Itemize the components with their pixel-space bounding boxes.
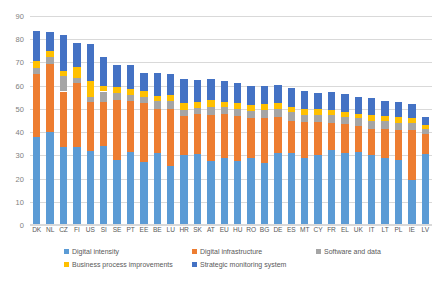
- bar-segment-BE-business-process-improvements[interactable]: [154, 96, 162, 101]
- bar-segment-HU-digital-infrastructure[interactable]: [234, 116, 242, 161]
- bar-segment-FI-digital-intensity[interactable]: [73, 147, 81, 225]
- bar-segment-IT-digital-infrastructure[interactable]: [368, 129, 376, 156]
- bar-segment-NL-digital-intensity[interactable]: [46, 132, 54, 225]
- bar-segment-EU-strategic-monitoring-system[interactable]: [221, 81, 229, 102]
- bar-segment-IT-software-and-data[interactable]: [368, 121, 376, 129]
- bar-segment-LU-digital-infrastructure[interactable]: [167, 109, 175, 166]
- bar-segment-HU-digital-intensity[interactable]: [234, 161, 242, 225]
- bar-segment-PT-software-and-data[interactable]: [127, 95, 135, 101]
- bar-ES[interactable]: [288, 16, 296, 225]
- bar-CZ[interactable]: [60, 16, 68, 225]
- bar-HR[interactable]: [180, 16, 188, 225]
- bar-CY[interactable]: [314, 16, 322, 225]
- bar-segment-LT-digital-intensity[interactable]: [381, 158, 389, 225]
- bar-segment-EU-software-and-data[interactable]: [221, 107, 229, 114]
- bar-US[interactable]: [87, 16, 95, 225]
- bar-segment-DE-software-and-data[interactable]: [274, 109, 282, 117]
- bar-segment-FR-strategic-monitoring-system[interactable]: [328, 92, 336, 111]
- bar-segment-MT-digital-infrastructure[interactable]: [301, 122, 309, 158]
- bar-NL[interactable]: [46, 16, 54, 225]
- bar-IT[interactable]: [368, 16, 376, 225]
- bar-segment-HR-digital-intensity[interactable]: [180, 155, 188, 225]
- bar-DK[interactable]: [33, 16, 41, 225]
- bar-segment-DK-strategic-monitoring-system[interactable]: [33, 31, 41, 61]
- bar-segment-CZ-digital-intensity[interactable]: [60, 147, 68, 225]
- bar-segment-IE-business-process-improvements[interactable]: [408, 118, 416, 123]
- bar-segment-SE-business-process-improvements[interactable]: [113, 87, 121, 93]
- bar-segment-UK-digital-intensity[interactable]: [355, 152, 363, 225]
- bar-segment-BE-digital-intensity[interactable]: [154, 153, 162, 225]
- bar-segment-DE-strategic-monitoring-system[interactable]: [274, 85, 282, 104]
- bar-segment-CY-software-and-data[interactable]: [314, 115, 322, 122]
- bar-FI[interactable]: [73, 16, 81, 225]
- bar-segment-RO-software-and-data[interactable]: [247, 111, 255, 118]
- bar-segment-PL-software-and-data[interactable]: [395, 123, 403, 130]
- bar-segment-PL-digital-infrastructure[interactable]: [395, 130, 403, 160]
- legend-item-digital-infrastructure[interactable]: Digital infrastructure: [192, 248, 262, 255]
- bar-segment-PT-digital-infrastructure[interactable]: [127, 101, 135, 152]
- bar-segment-EL-digital-infrastructure[interactable]: [341, 124, 349, 153]
- bar-segment-DK-digital-intensity[interactable]: [33, 137, 41, 225]
- bar-segment-BE-strategic-monitoring-system[interactable]: [154, 73, 162, 96]
- bar-segment-FR-digital-infrastructure[interactable]: [328, 123, 336, 150]
- bar-segment-PL-digital-intensity[interactable]: [395, 160, 403, 225]
- bar-segment-SK-strategic-monitoring-system[interactable]: [194, 80, 202, 102]
- bar-segment-SK-digital-intensity[interactable]: [194, 154, 202, 225]
- bar-segment-DE-business-process-improvements[interactable]: [274, 103, 282, 109]
- bar-segment-HU-software-and-data[interactable]: [234, 109, 242, 116]
- bar-segment-IE-strategic-monitoring-system[interactable]: [408, 104, 416, 118]
- bar-segment-SI-digital-infrastructure[interactable]: [100, 102, 108, 146]
- bar-RO[interactable]: [247, 16, 255, 225]
- bar-segment-EE-digital-intensity[interactable]: [140, 162, 148, 225]
- bar-segment-RO-digital-infrastructure[interactable]: [247, 118, 255, 157]
- bar-segment-SK-software-and-data[interactable]: [194, 108, 202, 114]
- bar-segment-DE-digital-infrastructure[interactable]: [274, 117, 282, 153]
- bar-segment-US-business-process-improvements[interactable]: [87, 81, 95, 97]
- bar-PT[interactable]: [127, 16, 135, 225]
- bar-segment-EL-business-process-improvements[interactable]: [341, 112, 349, 117]
- bar-segment-EL-digital-intensity[interactable]: [341, 153, 349, 225]
- bar-segment-HR-strategic-monitoring-system[interactable]: [180, 79, 188, 103]
- bar-segment-IE-software-and-data[interactable]: [408, 123, 416, 130]
- bar-segment-SI-software-and-data[interactable]: [100, 92, 108, 102]
- bar-segment-UK-software-and-data[interactable]: [355, 118, 363, 126]
- bar-segment-SI-strategic-monitoring-system[interactable]: [100, 57, 108, 86]
- bar-segment-FI-business-process-improvements[interactable]: [73, 67, 81, 77]
- bar-segment-MT-business-process-improvements[interactable]: [301, 109, 309, 115]
- bar-segment-IT-digital-intensity[interactable]: [368, 155, 376, 225]
- bar-segment-PT-strategic-monitoring-system[interactable]: [127, 65, 135, 89]
- bar-segment-EU-business-process-improvements[interactable]: [221, 102, 229, 107]
- bar-segment-FR-digital-intensity[interactable]: [328, 150, 336, 225]
- bar-segment-IT-strategic-monitoring-system[interactable]: [368, 98, 376, 114]
- bar-segment-NL-business-process-improvements[interactable]: [46, 51, 54, 57]
- bar-segment-CY-digital-infrastructure[interactable]: [314, 122, 322, 156]
- bar-segment-HU-business-process-improvements[interactable]: [234, 103, 242, 109]
- bar-segment-EE-strategic-monitoring-system[interactable]: [140, 73, 148, 92]
- bar-segment-BG-software-and-data[interactable]: [261, 110, 269, 118]
- bar-segment-FR-business-process-improvements[interactable]: [328, 110, 336, 115]
- legend-item-software-and-data[interactable]: Software and data: [316, 248, 381, 255]
- bar-segment-DK-digital-infrastructure[interactable]: [33, 74, 41, 137]
- bar-segment-ES-digital-intensity[interactable]: [288, 153, 296, 225]
- bar-segment-LV-digital-intensity[interactable]: [422, 154, 430, 225]
- bar-segment-CZ-business-process-improvements[interactable]: [60, 71, 68, 77]
- bar-segment-BG-business-process-improvements[interactable]: [261, 104, 269, 110]
- bar-UK[interactable]: [355, 16, 363, 225]
- bar-segment-RO-strategic-monitoring-system[interactable]: [247, 86, 255, 106]
- bar-segment-SI-business-process-improvements[interactable]: [100, 86, 108, 92]
- bar-segment-DK-business-process-improvements[interactable]: [33, 61, 41, 68]
- bar-segment-HR-business-process-improvements[interactable]: [180, 103, 188, 110]
- legend-item-business-process-improvements[interactable]: Business process improvements: [64, 261, 173, 268]
- bar-segment-EL-strategic-monitoring-system[interactable]: [341, 94, 349, 113]
- bar-segment-AT-digital-infrastructure[interactable]: [207, 115, 215, 161]
- bar-MT[interactable]: [301, 16, 309, 225]
- bar-segment-SK-business-process-improvements[interactable]: [194, 102, 202, 108]
- bar-segment-CY-strategic-monitoring-system[interactable]: [314, 93, 322, 109]
- bar-segment-AT-digital-intensity[interactable]: [207, 161, 215, 225]
- bar-segment-EE-software-and-data[interactable]: [140, 97, 148, 103]
- bar-segment-US-strategic-monitoring-system[interactable]: [87, 44, 95, 81]
- bar-SE[interactable]: [113, 16, 121, 225]
- bar-segment-EE-business-process-improvements[interactable]: [140, 91, 148, 97]
- bar-segment-LT-strategic-monitoring-system[interactable]: [381, 101, 389, 116]
- bar-segment-UK-strategic-monitoring-system[interactable]: [355, 97, 363, 113]
